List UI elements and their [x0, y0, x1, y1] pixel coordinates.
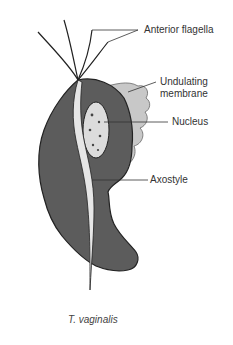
label-undulating-membrane-line1: Undulating	[160, 76, 208, 87]
trichomonas-illustration	[0, 0, 233, 345]
nucleus	[83, 102, 109, 158]
figure-caption: T. vaginalis	[68, 314, 118, 325]
label-undulating-membrane-line2: membrane	[160, 88, 208, 99]
label-axostyle: Axostyle	[150, 174, 188, 185]
anterior-flagella	[38, 20, 108, 80]
leader-line-flagella	[92, 30, 138, 42]
label-nucleus: Nucleus	[172, 116, 208, 127]
label-anterior-flagella: Anterior flagella	[144, 24, 213, 35]
